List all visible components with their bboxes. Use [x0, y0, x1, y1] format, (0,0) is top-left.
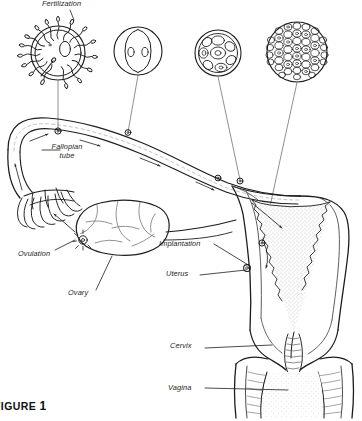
label-uterus: Uterus: [166, 269, 188, 278]
label-fallopian-tube-line2: tube: [60, 151, 75, 160]
stage-zygote-icon: [17, 17, 97, 89]
label-ovulation: Ovulation: [18, 249, 50, 258]
vagina: [235, 357, 354, 418]
ovary: [73, 200, 236, 255]
label-fallopian-tube: Fallopian tube: [44, 142, 90, 160]
fallopian-tube: [8, 118, 300, 204]
label-cervix: Cervix: [170, 341, 192, 350]
label-implantation: Implantation: [159, 239, 200, 248]
stage-blastocyst-icon: [266, 22, 328, 82]
figure-caption-prefix: FIGURE: [0, 400, 36, 412]
label-fertilization: Fertilization: [42, 0, 81, 8]
reproductive-tract-diagram: [0, 0, 362, 421]
figure-panel: Fertilization Fallopian tube Ovulation O…: [0, 0, 362, 421]
figure-caption-number: 1: [39, 399, 46, 413]
label-ovary: Ovary: [68, 288, 88, 297]
label-fallopian-tube-line1: Fallopian: [52, 142, 83, 151]
label-vagina: Vagina: [168, 383, 191, 392]
fimbriae: [18, 188, 83, 232]
figure-caption: FIGURE 1: [0, 399, 46, 413]
stage-morula-icon: [195, 30, 241, 76]
stage-two-cell-icon: [114, 27, 162, 75]
uterus: [232, 186, 349, 332]
